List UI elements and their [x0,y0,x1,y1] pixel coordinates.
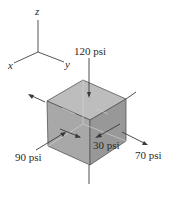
y-axis-line [38,52,64,62]
arrowhead-icon [142,141,148,145]
coordinate-axes [14,20,64,63]
stress-label-120psi: 120 psi [74,46,106,57]
stress-element-figure: z x y 120 psi 90 psi 30 psi 70 psi [0,0,173,198]
stress-label-70psi: 70 psi [135,150,162,161]
arrowhead-icon [28,94,34,99]
arrow-right-extension [126,92,136,99]
stress-label-90psi: 90 psi [15,152,42,163]
axis-label-z: z [35,6,39,17]
diagram-canvas [0,0,173,198]
stress-label-30psi: 30 psi [93,140,120,151]
axis-label-x: x [8,60,13,71]
x-axis-line [14,52,38,63]
axis-label-y: y [65,59,70,70]
cube [47,80,126,165]
